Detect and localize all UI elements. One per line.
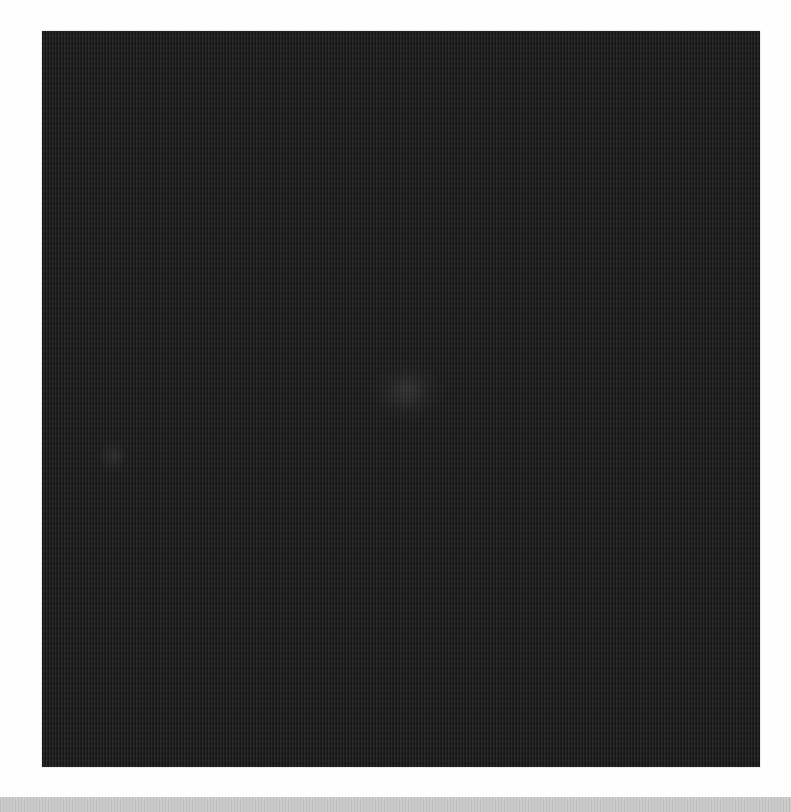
- dark-textured-panel: [42, 31, 760, 767]
- left-highlight: [98, 441, 128, 471]
- image-canvas: [0, 0, 791, 812]
- bottom-gray-bar: [0, 797, 791, 812]
- center-highlight: [372, 361, 442, 421]
